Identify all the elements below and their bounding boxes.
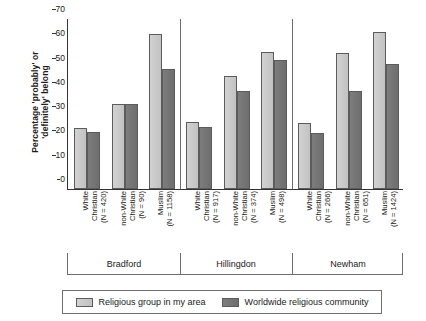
y-axis-title: Percentage 'probably' or 'definitely' be… bbox=[30, 14, 54, 190]
category-sample-size: (N = 1424) bbox=[389, 191, 398, 253]
bar-my-area bbox=[261, 52, 274, 189]
bar-worldwide bbox=[199, 127, 212, 189]
legend-item: Religious group in my area bbox=[76, 297, 206, 307]
legend-label: Religious group in my area bbox=[99, 297, 206, 307]
category-label: WhiteChristian(N = 266) bbox=[305, 191, 316, 253]
x-axis-line bbox=[67, 189, 403, 190]
bar-my-area bbox=[373, 32, 386, 189]
category-label-line: Christian bbox=[128, 191, 137, 253]
category-label-line: non-White bbox=[119, 191, 128, 253]
y-tick-label: 0 bbox=[60, 174, 65, 184]
bar-pair bbox=[149, 19, 178, 189]
category-label: WhiteChristian(N = 917) bbox=[193, 191, 204, 253]
bar-my-area bbox=[298, 123, 311, 189]
bar-worldwide bbox=[274, 60, 287, 189]
category-label-line: White bbox=[305, 191, 314, 253]
y-tick-label: 50 bbox=[56, 53, 65, 63]
y-tick-label: 40 bbox=[56, 77, 65, 87]
category-sample-size: (N = 90) bbox=[137, 191, 146, 253]
city-group-band: BradfordHillingdonNewham bbox=[67, 253, 403, 275]
bar-pair bbox=[261, 19, 290, 189]
chart-figure: Percentage 'probably' or 'definitely' be… bbox=[0, 0, 426, 321]
y-tick-label: 60 bbox=[56, 28, 65, 38]
bar-my-area bbox=[74, 128, 87, 189]
category-label: non-WhiteChristian(N = 651) bbox=[343, 191, 354, 253]
city-separator bbox=[292, 253, 293, 274]
category-label-line: Christian bbox=[240, 191, 249, 253]
category-label-line: Christian bbox=[352, 191, 361, 253]
category-label-line: Muslim bbox=[268, 191, 277, 253]
category-label: non-WhiteChristian(N = 90) bbox=[119, 191, 130, 253]
legend-item: Worldwide religious community bbox=[222, 297, 369, 307]
bar-my-area bbox=[336, 53, 349, 189]
bar-worldwide bbox=[125, 104, 138, 189]
category-label: Muslim(N = 1158) bbox=[156, 191, 167, 253]
city-group-label: Bradford bbox=[68, 253, 180, 274]
y-tick-mark bbox=[52, 33, 56, 34]
category-label-line: Muslim bbox=[156, 191, 165, 253]
category-sample-size: (N = 498) bbox=[277, 191, 286, 253]
bar-pair bbox=[112, 19, 141, 189]
y-tick-mark bbox=[52, 130, 56, 131]
bar-my-area bbox=[112, 104, 125, 189]
category-sample-size: (N = 1158) bbox=[165, 191, 174, 253]
y-tick-label: 30 bbox=[56, 101, 65, 111]
y-tick-mark bbox=[52, 155, 56, 156]
bar-worldwide bbox=[386, 64, 399, 189]
bar-my-area bbox=[224, 76, 237, 189]
category-label-line: non-White bbox=[231, 191, 240, 253]
category-sample-size: (N = 420) bbox=[99, 191, 108, 253]
x-axis-category-labels: WhiteChristian(N = 420)non-WhiteChristia… bbox=[67, 191, 403, 253]
group-separator bbox=[180, 19, 181, 189]
category-sample-size: (N = 651) bbox=[361, 191, 370, 253]
category-label-line: Christian bbox=[202, 191, 211, 253]
bar-my-area bbox=[149, 34, 162, 189]
bar-pair bbox=[224, 19, 253, 189]
y-tick-label: 10 bbox=[56, 150, 65, 160]
legend-swatch-light bbox=[76, 298, 93, 307]
category-label-line: non-White bbox=[343, 191, 352, 253]
y-tick-mark bbox=[52, 58, 56, 59]
category-label-line: Christian bbox=[314, 191, 323, 253]
bar-worldwide bbox=[87, 132, 100, 189]
category-label: WhiteChristian(N = 420) bbox=[81, 191, 92, 253]
category-label: Muslim(N = 1424) bbox=[380, 191, 391, 253]
bar-worldwide bbox=[311, 133, 324, 189]
legend-swatch-dark bbox=[222, 298, 239, 307]
category-label-line: White bbox=[193, 191, 202, 253]
bar-my-area bbox=[186, 122, 199, 189]
bar-worldwide bbox=[162, 69, 175, 189]
y-tick-label: 20 bbox=[56, 125, 65, 135]
city-separator bbox=[180, 253, 181, 274]
group-separator bbox=[292, 19, 293, 189]
y-tick-mark bbox=[57, 179, 61, 180]
bar-pair bbox=[74, 19, 103, 189]
bar-pair bbox=[186, 19, 215, 189]
category-sample-size: (N = 374) bbox=[249, 191, 258, 253]
category-sample-size: (N = 266) bbox=[323, 191, 332, 253]
bar-worldwide bbox=[349, 91, 362, 189]
city-group-label: Newham bbox=[292, 253, 404, 274]
y-tick-label: 70 bbox=[56, 4, 65, 14]
y-tick-mark bbox=[52, 82, 56, 83]
category-label: Muslim(N = 498) bbox=[268, 191, 279, 253]
category-label-line: White bbox=[81, 191, 90, 253]
category-label-line: Christian bbox=[90, 191, 99, 253]
city-group-label: Hillingdon bbox=[180, 253, 292, 274]
category-label-line: Muslim bbox=[380, 191, 389, 253]
bar-pair bbox=[298, 19, 327, 189]
category-label: non-WhiteChristian(N = 374) bbox=[231, 191, 242, 253]
legend-label: Worldwide religious community bbox=[245, 297, 369, 307]
bar-worldwide bbox=[237, 91, 250, 189]
plot-area: 010203040506070 bbox=[67, 19, 403, 189]
bar-pair bbox=[336, 19, 365, 189]
category-sample-size: (N = 917) bbox=[211, 191, 220, 253]
y-tick-mark bbox=[52, 9, 56, 10]
bar-series-container bbox=[68, 19, 403, 189]
y-tick-mark bbox=[52, 106, 56, 107]
chart-legend: Religious group in my areaWorldwide reli… bbox=[62, 290, 382, 314]
bar-pair bbox=[373, 19, 402, 189]
